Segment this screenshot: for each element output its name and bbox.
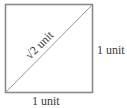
svg-text:√2 unit: √2 unit bbox=[22, 28, 57, 63]
square-diagonal-diagram: √2 unit 1 unit 1 unit bbox=[0, 0, 127, 108]
diagonal-label-value: 2 unit bbox=[27, 28, 57, 58]
diagonal-label: √2 unit bbox=[22, 28, 57, 63]
right-side-label: 1 unit bbox=[97, 43, 125, 57]
bottom-side-label: 1 unit bbox=[32, 94, 60, 108]
diagonal-line bbox=[6, 5, 93, 93]
